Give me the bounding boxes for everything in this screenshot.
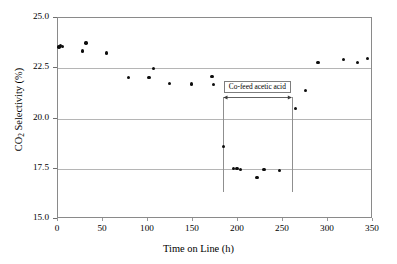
gridline	[58, 68, 371, 69]
x-axis-title: Time on Line (h)	[0, 243, 397, 254]
data-point	[262, 168, 265, 171]
data-point	[168, 82, 171, 85]
x-axis-tick-mark	[147, 218, 148, 221]
gridline	[58, 169, 371, 170]
x-axis-tick-label: 300	[320, 223, 334, 233]
data-point	[222, 145, 225, 148]
data-point	[212, 83, 215, 86]
x-axis-tick-label: 250	[275, 223, 289, 233]
x-axis-tick-mark	[327, 218, 328, 221]
annotation-double-arrow	[223, 94, 292, 101]
plot-area: Co-feed acetic acid	[57, 17, 372, 218]
x-axis-tick-label: 150	[185, 223, 199, 233]
y-axis-tick-label: 20.0	[0, 112, 49, 122]
data-point	[304, 89, 307, 92]
x-axis-tick-mark	[102, 218, 103, 221]
data-point	[210, 75, 213, 78]
y-axis-title-subscript: 2	[17, 133, 26, 137]
x-axis-tick-mark	[372, 218, 373, 221]
data-point	[190, 82, 193, 85]
data-point	[152, 67, 155, 70]
y-axis-tick-label: 25.0	[0, 11, 49, 21]
data-point	[81, 49, 84, 52]
data-point	[278, 169, 281, 172]
data-point	[316, 61, 319, 64]
x-axis-tick-label: 200	[230, 223, 244, 233]
y-axis-title-post: Selectivity (%)	[13, 68, 24, 133]
data-point	[255, 176, 258, 179]
chart-figure: CO2 Selectivity (%) Time on Line (h) 15.…	[0, 0, 397, 264]
data-point	[366, 57, 369, 60]
x-axis-tick-label: 50	[97, 223, 106, 233]
x-axis-tick-mark	[57, 218, 58, 221]
data-point	[61, 45, 64, 48]
data-point	[294, 107, 297, 110]
data-point	[127, 76, 130, 79]
data-point	[239, 168, 242, 171]
x-axis-tick-label: 100	[140, 223, 154, 233]
gridline	[58, 119, 371, 120]
data-point	[356, 61, 359, 64]
annotation-vline-end	[292, 97, 293, 192]
y-axis-tick-label: 22.5	[0, 61, 49, 71]
y-axis-tick-label: 17.5	[0, 162, 49, 172]
data-point	[84, 41, 87, 44]
x-axis-tick-mark	[192, 218, 193, 221]
y-axis-tick-label: 15.0	[0, 212, 49, 222]
x-axis-tick-mark	[237, 218, 238, 221]
x-axis-tick-mark	[282, 218, 283, 221]
y-axis-title-pre: CO	[13, 137, 24, 151]
data-point	[342, 58, 345, 61]
annotation-label-co-feed-acetic-acid: Co-feed acetic acid	[224, 81, 291, 93]
x-axis-tick-label: 0	[55, 223, 60, 233]
data-point	[147, 76, 150, 79]
x-axis-tick-label: 350	[365, 223, 379, 233]
data-point	[105, 51, 108, 54]
